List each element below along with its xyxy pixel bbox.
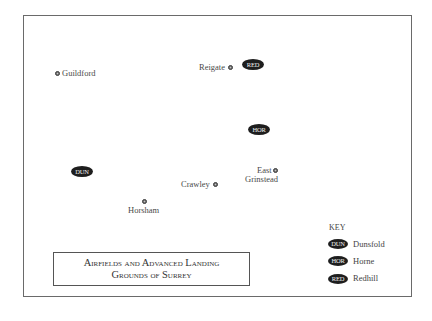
town-label-guildford: Guildford bbox=[62, 69, 96, 78]
map-title: Airfields and Advanced Landing Grounds o… bbox=[53, 252, 250, 286]
town-marker-icon bbox=[213, 182, 218, 187]
key-label-horne: Horne bbox=[353, 256, 374, 266]
key-label-redhill: Redhill bbox=[353, 273, 378, 283]
airfield-badge-dun: DUN bbox=[71, 166, 93, 177]
map-title-line1: Airfields and Advanced Landing bbox=[54, 257, 249, 269]
town-label-reigate: Reigate bbox=[199, 63, 225, 72]
town-marker-icon bbox=[228, 65, 233, 70]
town-marker-icon bbox=[273, 168, 278, 173]
key-badge-red: RED bbox=[328, 274, 348, 284]
key-label-dunsfold: Dunsfold bbox=[353, 239, 385, 249]
town-label-crawley: Crawley bbox=[181, 180, 210, 189]
town-label-horsham: Horsham bbox=[128, 206, 159, 215]
key-badge-hor: HOR bbox=[328, 256, 348, 266]
key-badge-dun: DUN bbox=[328, 239, 348, 249]
key-heading: KEY bbox=[329, 223, 345, 232]
airfield-badge-red: RED bbox=[242, 59, 264, 70]
town-marker-icon bbox=[142, 199, 147, 204]
airfield-badge-hor: HOR bbox=[248, 124, 270, 135]
town-marker-icon bbox=[55, 71, 60, 76]
map-title-line2: Grounds of Surrey bbox=[54, 269, 249, 281]
town-label-grinstead: Grinstead bbox=[245, 175, 278, 184]
